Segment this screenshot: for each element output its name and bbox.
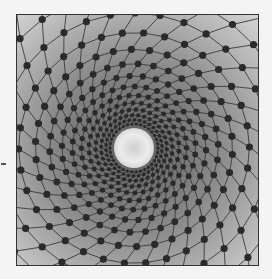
bright-center-disc xyxy=(114,128,154,168)
spiral-lattice-image xyxy=(17,15,259,266)
left-tick-mark xyxy=(1,163,6,165)
lattice-photo-frame xyxy=(16,14,259,266)
